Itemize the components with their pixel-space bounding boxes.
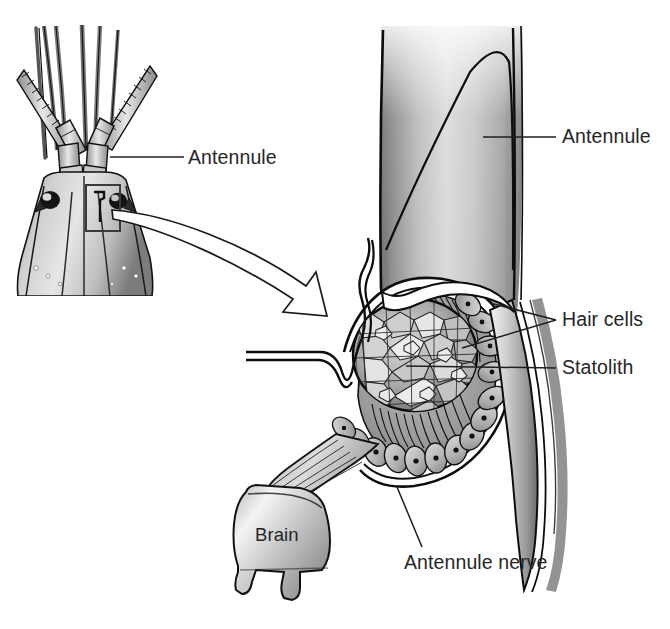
label-brain: Brain bbox=[255, 526, 299, 545]
label-statolith: Statolith bbox=[562, 358, 633, 378]
crayfish-head-panel bbox=[8, 22, 160, 296]
label-antennule-right: Antennule bbox=[562, 127, 651, 147]
antennule-right-wall bbox=[490, 298, 568, 592]
label-hair-cells: Hair cells bbox=[562, 310, 643, 330]
statocyst-cutaway-panel bbox=[234, 26, 568, 600]
label-antennule-left: Antennule bbox=[188, 148, 277, 168]
leader-antennule-nerve bbox=[397, 487, 422, 547]
label-antennule-nerve: Antennule nerve bbox=[404, 553, 548, 573]
